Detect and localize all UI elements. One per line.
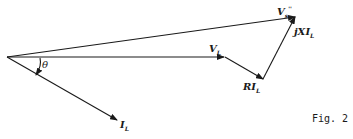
phasor-diagram [0,0,353,139]
phasor-jxil [263,17,295,79]
theta-arc [36,58,41,75]
label-jxil: jXIL [294,27,314,39]
label-il: IL [120,120,129,132]
label-theta: θ [42,60,48,70]
figure-caption: Fig. 2 [312,114,348,124]
label-vs: Vs'' [277,6,292,19]
phasor-vs [7,17,295,57]
phasor-ril [225,57,263,79]
label-ril: RIL [243,82,260,94]
label-vl: VL [209,44,221,56]
phasor-il [7,57,117,120]
